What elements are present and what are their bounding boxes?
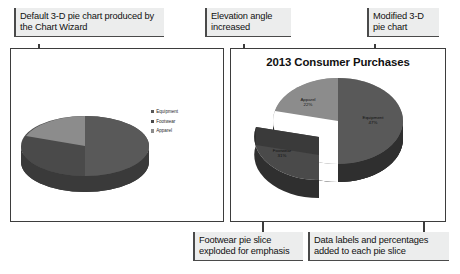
legend-label-equipment: Equipment [156,107,178,117]
data-label-equipment: Equipment 47% [351,115,395,125]
exploded-footwear-group [254,127,319,198]
legend-item-equipment: Equipment [151,107,178,117]
legend-label-apparel: Apparel [156,126,172,136]
chart-legend: Equipment Footwear Apparel [151,107,178,136]
callout-data-labels: Data labels and percentages added to eac… [308,232,449,261]
default-3d-pie-chart-frame: Equipment Footwear Apparel [10,48,224,222]
legend-item-apparel: Apparel [151,126,178,136]
data-label-footwear: Footwear 31% [261,148,303,158]
callout-default-chart: Default 3-D pie chart produced by the Ch… [14,8,164,37]
legend-item-footwear: Footwear [151,117,178,127]
legend-label-footwear: Footwear [156,117,175,127]
legend-swatch-equipment [151,110,154,113]
legend-swatch-apparel [151,129,154,132]
modified-3d-pie-chart-graphic [231,49,445,221]
data-label-equipment-pct: 47% [351,120,395,125]
data-label-apparel-pct: 22% [288,102,328,107]
slide-canvas: Default 3-D pie chart produced by the Ch… [0,0,460,274]
callout-exploded-slice: Footwear pie slice exploded for emphasis [193,232,303,261]
legend-swatch-footwear [151,120,154,123]
data-label-footwear-pct: 31% [261,153,303,158]
callout-modified-chart: Modified 3-D pie chart [367,8,439,37]
data-label-apparel: Apparel 22% [288,97,328,107]
callout-elevation-angle: Elevation angle increased [205,8,291,37]
default-3d-pie-chart-graphic [11,49,223,221]
modified-3d-pie-chart-frame: 2013 Consumer Purchases [230,48,446,222]
